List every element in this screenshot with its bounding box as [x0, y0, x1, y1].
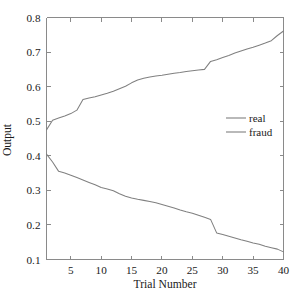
x-axis-ticks — [71, 18, 284, 260]
y-tick-label: 0.1 — [27, 254, 41, 266]
y-axis-tick-labels: 0.10.20.30.40.50.60.70.8 — [27, 12, 41, 266]
y-tick-label: 0.6 — [27, 81, 41, 93]
x-tick-label: 20 — [156, 264, 168, 276]
line-chart: 0.10.20.30.40.50.60.70.8 510152025303540… — [0, 0, 299, 304]
series-line-real — [47, 31, 284, 130]
x-axis-title: Trial Number — [133, 278, 196, 291]
y-tick-label: 0.4 — [27, 150, 41, 162]
x-tick-label: 30 — [217, 264, 229, 276]
series-line-fraud — [47, 154, 284, 252]
x-tick-label: 15 — [126, 264, 138, 276]
y-tick-label: 0.5 — [27, 115, 41, 127]
y-tick-label: 0.8 — [27, 12, 41, 24]
x-tick-label: 10 — [96, 264, 108, 276]
series-lines — [47, 31, 284, 252]
y-tick-label: 0.7 — [27, 46, 41, 58]
y-tick-label: 0.2 — [27, 219, 41, 231]
chart-legend: realfraud — [226, 112, 273, 138]
x-tick-label: 40 — [278, 264, 290, 276]
x-tick-label: 35 — [248, 264, 260, 276]
legend-label-real: real — [249, 112, 265, 124]
legend-label-fraud: fraud — [249, 126, 273, 138]
x-tick-label: 5 — [68, 264, 74, 276]
y-tick-label: 0.3 — [27, 184, 41, 196]
axes — [47, 18, 284, 260]
axis-frame — [47, 18, 284, 260]
x-tick-label: 25 — [187, 264, 199, 276]
y-axis-ticks — [47, 18, 284, 260]
chart-figure: 0.10.20.30.40.50.60.70.8 510152025303540… — [0, 0, 299, 304]
y-axis-title: Output — [1, 123, 14, 156]
x-axis-tick-labels: 510152025303540 — [68, 264, 289, 276]
